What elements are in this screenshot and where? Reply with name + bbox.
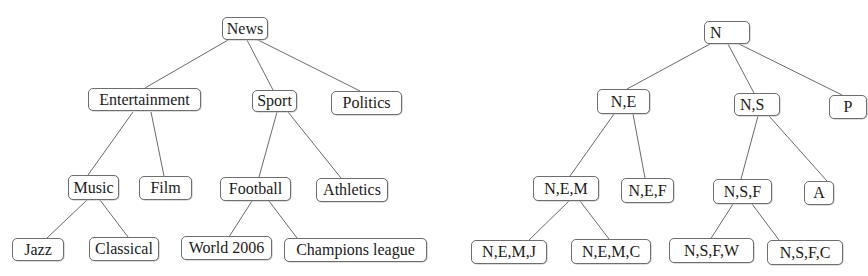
- node-entertainment: Entertainment: [88, 88, 201, 111]
- edge-ns-nsf: [741, 116, 758, 179]
- node-football: Football: [220, 177, 291, 201]
- edge-n-p: [737, 43, 842, 95]
- edge-news-entertainment: [145, 40, 228, 88]
- node-sport: Sport: [252, 90, 297, 112]
- node-news: News: [222, 17, 268, 40]
- edge-ne-nem: [570, 114, 614, 176]
- edge-news-politics: [256, 39, 360, 91]
- named-tree-edges: [47, 39, 360, 240]
- node-nef: N,E,F: [621, 178, 674, 203]
- edge-news-sport: [247, 40, 273, 90]
- node-film: Film: [139, 176, 192, 200]
- edge-nem-nemj: [529, 201, 569, 240]
- node-nsfc: N,S,F,C: [767, 240, 843, 265]
- abbreviated-tree-edges: [529, 43, 842, 240]
- edge-entertainment-music: [88, 112, 133, 175]
- node-a: A: [804, 181, 834, 205]
- edge-nsf-nsfc: [752, 204, 779, 240]
- edge-sport-athletics: [288, 112, 341, 178]
- edge-nem-nemc: [580, 201, 609, 239]
- edge-football-champions: [269, 201, 297, 238]
- node-nsfw: N,S,F,W: [669, 238, 754, 263]
- node-ns: N,S: [734, 93, 780, 116]
- edge-ne-nef: [633, 114, 645, 178]
- edge-n-ns: [728, 44, 754, 93]
- node-ne: N,E: [597, 89, 650, 114]
- node-nem: N,E,M: [533, 176, 599, 201]
- node-politics: Politics: [331, 91, 402, 115]
- node-athletics: Athletics: [316, 178, 388, 202]
- node-nsf: N,S,F: [713, 179, 772, 204]
- edge-ns-a: [769, 116, 827, 181]
- edge-sport-football: [259, 112, 277, 177]
- node-jazz: Jazz: [12, 238, 64, 261]
- node-music: Music: [68, 175, 119, 200]
- edge-nsf-nsfw: [710, 204, 733, 240]
- diagram-canvas: NewsEntertainmentSportPoliticsMusicFilmF…: [0, 0, 868, 276]
- edge-n-ne: [627, 44, 710, 89]
- node-world2006: World 2006: [181, 236, 272, 260]
- node-classical: Classical: [89, 237, 159, 261]
- node-nemj: N,E,M,J: [471, 240, 547, 264]
- edge-music-classical: [100, 200, 128, 237]
- edge-music-jazz: [47, 200, 87, 238]
- node-n: N: [704, 21, 750, 44]
- node-nemc: N,E,M,C: [571, 239, 651, 264]
- node-champions: Champions league: [284, 238, 427, 262]
- edge-entertainment-film: [151, 112, 164, 176]
- node-p: P: [829, 95, 867, 119]
- edge-football-world2006: [227, 201, 252, 240]
